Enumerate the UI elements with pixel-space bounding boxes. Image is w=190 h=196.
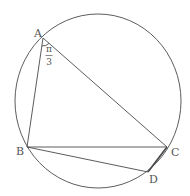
point-label-a: A: [33, 27, 43, 40]
segment-cd: [148, 147, 167, 172]
angle-label-denominator: 3: [46, 57, 52, 67]
point-label-b: B: [16, 145, 24, 158]
segment-ac: [43, 38, 167, 147]
geometry-diagram: π 3 A B C D: [0, 0, 190, 196]
segment-ab: [27, 38, 43, 147]
angle-label-numerator: π: [46, 44, 52, 54]
segment-cd-double: [149, 149, 165, 170]
point-label-d: D: [149, 173, 158, 186]
point-label-c: C: [171, 146, 179, 159]
